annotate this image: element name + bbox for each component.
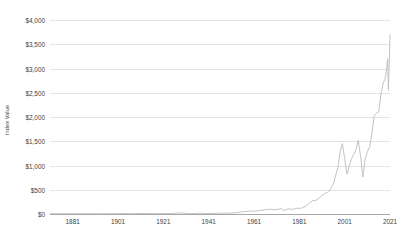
y-axis-title: Index Value: [0, 0, 14, 240]
plot-area: [50, 20, 390, 214]
series-svg: [50, 20, 390, 214]
x-tick-label: 1941: [189, 218, 229, 225]
y-tick-label: $2,500: [0, 89, 45, 96]
x-tick-label: 2021: [370, 218, 401, 225]
line-chart: Index Value $0$500$1,000$1,500$2,000$2,5…: [0, 0, 401, 240]
x-tick-label: 1961: [234, 218, 274, 225]
y-tick-label: $1,000: [0, 162, 45, 169]
y-tick-label: $3,000: [0, 65, 45, 72]
y-tick-label: $2,000: [0, 114, 45, 121]
y-tick-label: $3,500: [0, 41, 45, 48]
x-tick-label: 2001: [325, 218, 365, 225]
x-tick-label: 1981: [279, 218, 319, 225]
y-tick-label: $4,000: [0, 17, 45, 24]
y-tick-label: $0: [0, 211, 45, 218]
y-tick-label: $500: [0, 186, 45, 193]
x-axis-tick-labels: 18811901192119411961198120012021: [0, 218, 401, 232]
y-tick-label: $1,500: [0, 138, 45, 145]
series-line-index-value: [50, 35, 390, 214]
x-tick-label: 1881: [53, 218, 93, 225]
x-tick-label: 1921: [143, 218, 183, 225]
x-tick-label: 1901: [98, 218, 138, 225]
